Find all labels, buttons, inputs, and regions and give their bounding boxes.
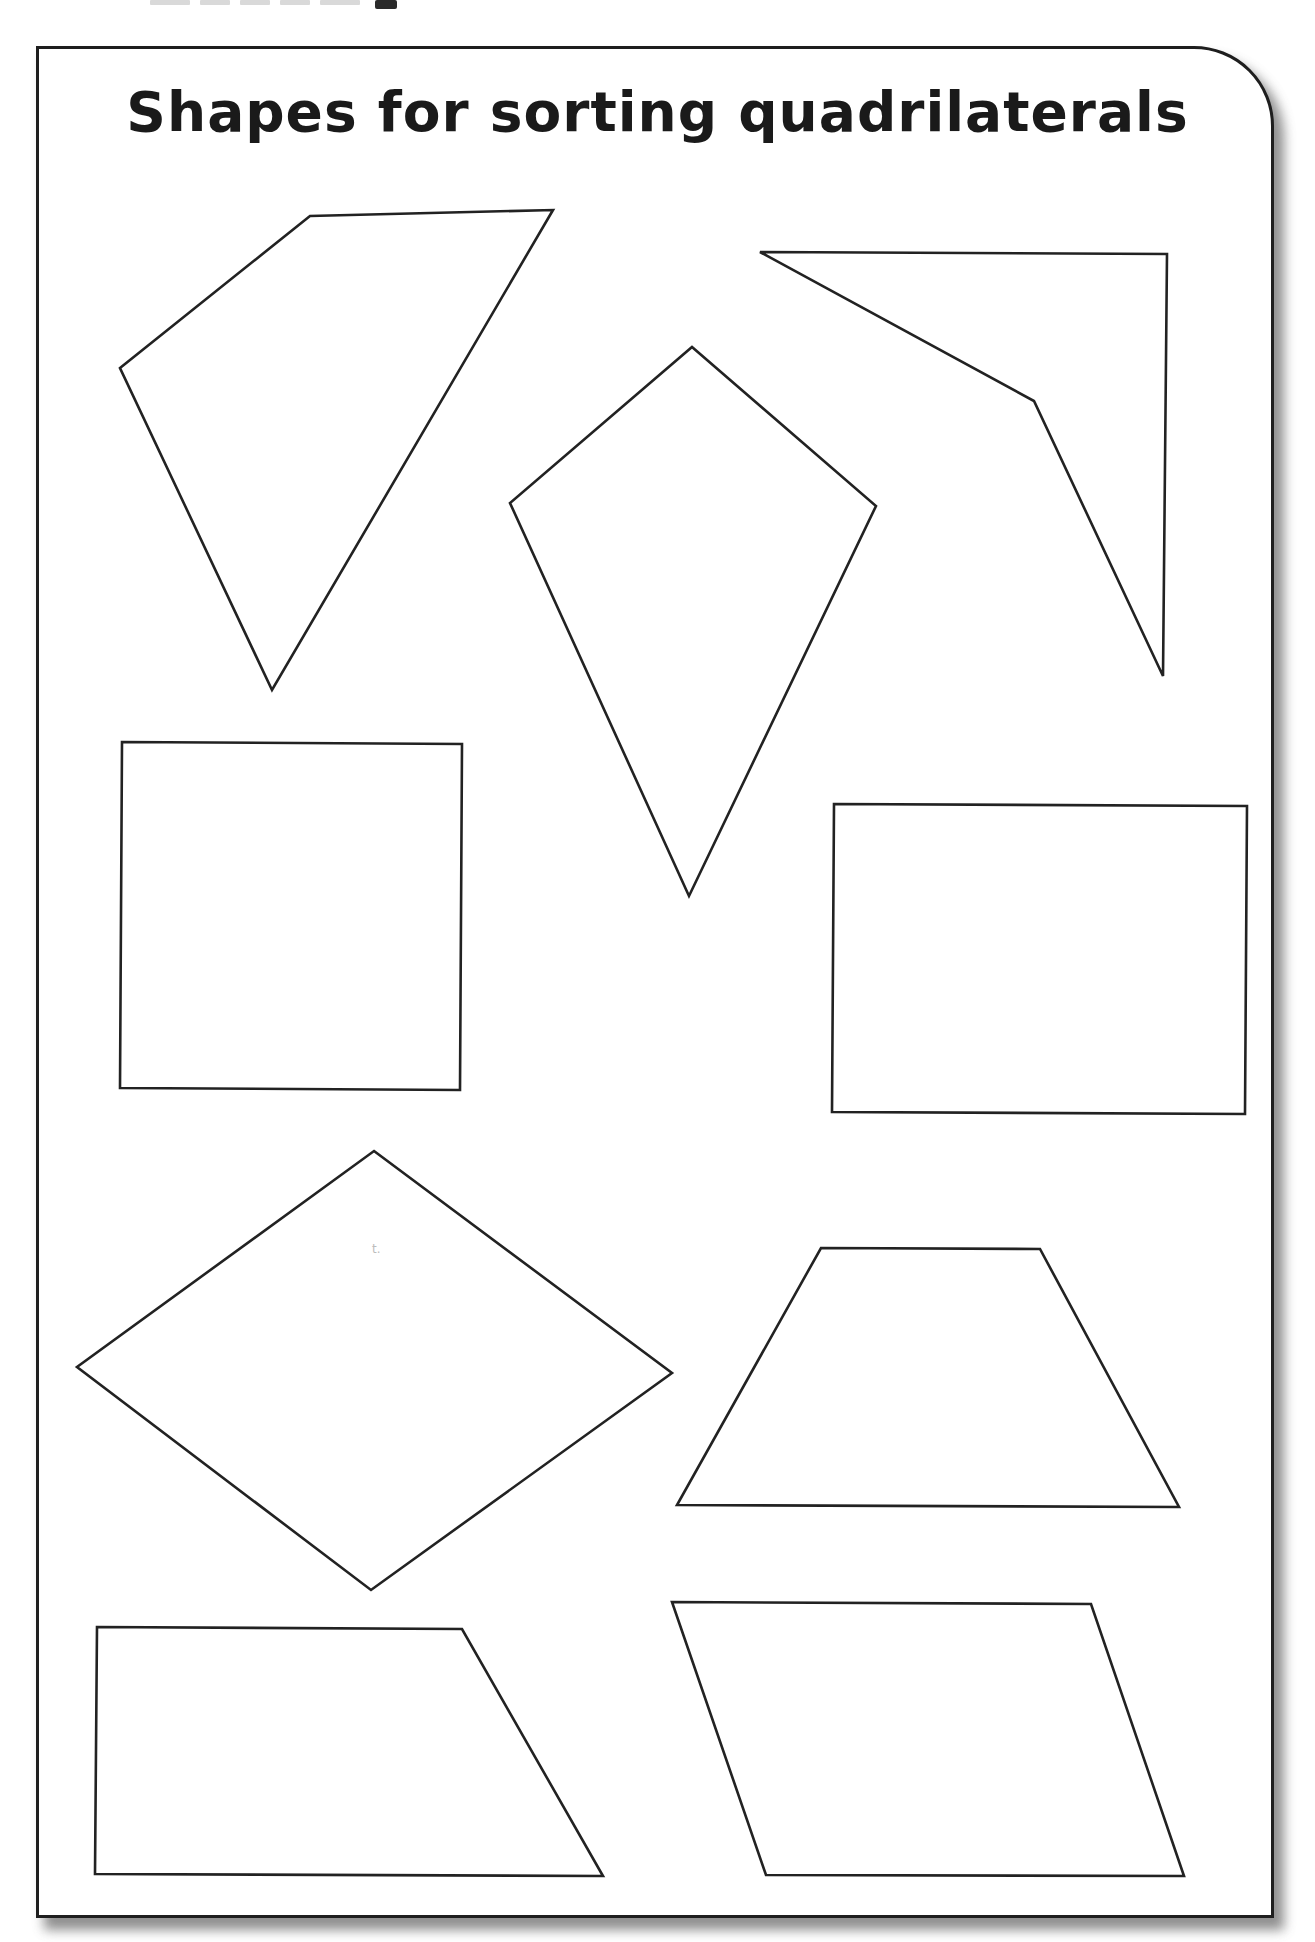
shape-right-trapezium (95, 1627, 603, 1876)
shape-kite (510, 347, 876, 896)
shape-trapezium (677, 1248, 1179, 1507)
shape-parallelogram (672, 1602, 1184, 1876)
shape-irregular-quadrilateral (120, 210, 553, 690)
stray-mark: t. (372, 1242, 381, 1256)
shape-square (120, 742, 462, 1090)
shape-rhombus (77, 1151, 672, 1590)
shapes-canvas (0, 0, 1315, 1942)
shape-rectangle (832, 804, 1247, 1114)
